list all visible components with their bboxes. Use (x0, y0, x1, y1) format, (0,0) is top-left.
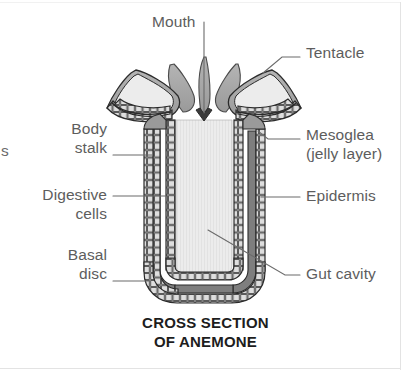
label-mesoglea-line2: (jelly layer) (306, 144, 382, 163)
label-basal-disc-line1: Basal (0, 245, 107, 264)
label-mesoglea-line1: Mesoglea (306, 125, 382, 144)
label-tentacle: Tentacle (306, 43, 365, 62)
edge-text-fragment: s (1, 141, 9, 160)
label-body-stalk-line1: Body (0, 119, 107, 138)
label-mouth-text: Mouth (152, 13, 196, 30)
label-body-stalk: Body stalk (0, 119, 107, 157)
label-gut-cavity: Gut cavity (306, 264, 376, 283)
figure-caption-line2: OF ANEMONE (0, 332, 411, 351)
label-digestive-cells-line1: Digestive (0, 185, 107, 204)
mesoglea-basal (175, 285, 233, 293)
label-mesoglea: Mesoglea (jelly layer) (306, 125, 382, 163)
label-body-stalk-line2: stalk (0, 138, 107, 157)
epidermis-right (256, 129, 265, 271)
label-epidermis-text: Epidermis (306, 187, 376, 204)
label-tentacle-text: Tentacle (306, 44, 365, 61)
gut-cavity-area (176, 120, 232, 276)
label-digestive-cells: Digestive cells (0, 185, 107, 223)
label-basal-disc: Basal disc (0, 245, 107, 283)
label-mouth: Mouth (152, 12, 196, 31)
figure-page: Mouth Tentacle Mesoglea (jelly layer) Ep… (0, 0, 411, 383)
label-digestive-cells-line2: cells (0, 204, 107, 223)
label-gut-cavity-text: Gut cavity (306, 265, 376, 282)
label-epidermis: Epidermis (306, 186, 376, 205)
figure-caption-line1: CROSS SECTION (0, 313, 411, 332)
body-column-group (107, 99, 301, 303)
label-basal-disc-line2: disc (0, 264, 107, 283)
digestive-cells-left (166, 120, 175, 270)
